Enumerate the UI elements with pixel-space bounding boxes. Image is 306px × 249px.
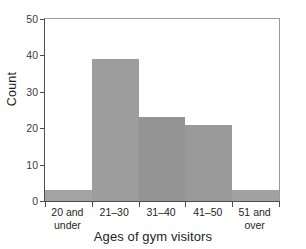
plot-area: 01020304050 <box>44 18 280 202</box>
x-tick-label-line: 31–40 <box>146 206 175 219</box>
y-tick-label: 0 <box>32 195 38 207</box>
bar <box>139 117 186 201</box>
x-tick-label-line: 20 and <box>51 206 83 219</box>
x-tick-label: 41–50 <box>193 206 222 219</box>
y-tick-label: 20 <box>26 122 38 134</box>
x-tick-label: 21–30 <box>100 206 129 219</box>
x-axis-title: Ages of gym visitors <box>0 229 306 244</box>
y-tick-mark <box>40 55 45 56</box>
bar <box>45 190 92 201</box>
histogram-figure: Count 01020304050 20 andunder21–3031–404… <box>0 0 306 249</box>
y-tick-label: 30 <box>26 86 38 98</box>
x-tick-label-line: 21–30 <box>100 206 129 219</box>
x-tick-label-line: 41–50 <box>193 206 222 219</box>
y-tick-label: 40 <box>26 49 38 61</box>
x-tick-mark <box>279 201 280 207</box>
y-axis-title: Count <box>5 49 19 129</box>
y-tick-label: 50 <box>26 13 38 25</box>
bar <box>92 59 139 201</box>
bar <box>232 190 279 201</box>
y-tick-mark <box>40 165 45 166</box>
y-tick-mark <box>40 92 45 93</box>
y-tick-label: 10 <box>26 159 38 171</box>
y-tick-mark <box>40 19 45 20</box>
bar <box>185 125 232 201</box>
y-tick-mark <box>40 128 45 129</box>
x-tick-label-line: 51 and <box>239 206 271 219</box>
x-tick-label: 31–40 <box>146 206 175 219</box>
